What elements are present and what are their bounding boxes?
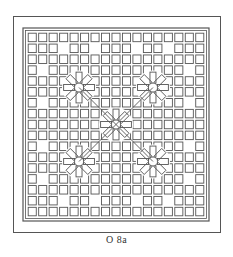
lattice-pattern-drawing xyxy=(0,0,233,257)
lattice-figure: O 8a xyxy=(0,0,233,257)
figure-caption: O 8a xyxy=(0,234,233,245)
